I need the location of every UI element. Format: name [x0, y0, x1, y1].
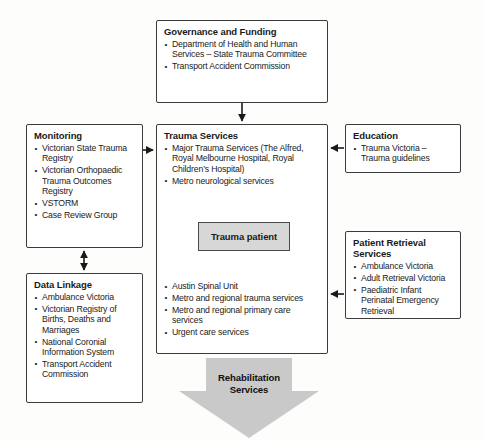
- box-patient-retrieval-services[interactable]: Patient Retrieval Services Ambulance Vic…: [345, 231, 461, 319]
- list-item: Victorian Orthopaedic Trauma Outcomes Re…: [34, 165, 136, 196]
- list-item: Metro neurological services: [164, 176, 321, 186]
- box-item-list: Trauma Victoria – Trauma guidelines: [353, 143, 454, 164]
- list-item: Austin Spinal Unit: [164, 281, 321, 291]
- box-governance-and-funding[interactable]: Governance and Funding Department of Hea…: [156, 20, 328, 103]
- list-item: Paediatric Infant Perinatal Emergency Re…: [353, 285, 454, 316]
- rehabilitation-arrow-icon: [179, 358, 319, 438]
- box-item-list-top: Major Trauma Services (The Alfred, Royal…: [164, 143, 321, 186]
- box-item-list-bottom: Austin Spinal Unit Metro and regional tr…: [164, 281, 321, 339]
- box-item-list: Department of Health and Human Services …: [164, 39, 321, 72]
- list-item: Transport Accident Commission: [34, 359, 136, 380]
- box-item-list: Ambulance Victoria Adult Retrieval Victo…: [353, 261, 454, 316]
- list-item: Metro and regional primary care services: [164, 305, 321, 326]
- box-education[interactable]: Education Trauma Victoria – Trauma guide…: [345, 124, 461, 173]
- box-title: Education: [353, 130, 454, 141]
- box-trauma-patient[interactable]: Trauma patient: [198, 222, 290, 251]
- box-title: Governance and Funding: [164, 26, 321, 37]
- list-item: Transport Accident Commission: [164, 61, 321, 71]
- box-data-linkage[interactable]: Data Linkage Ambulance Victoria Victoria…: [26, 273, 143, 403]
- list-item: Adult Retrieval Victoria: [353, 273, 454, 283]
- box-title: Patient Retrieval Services: [353, 237, 454, 259]
- list-item: Case Review Group: [34, 210, 136, 220]
- rehabilitation-services-label: Rehabilitation Services: [179, 372, 319, 396]
- list-item: Victorian Registry of Births, Deaths and…: [34, 304, 136, 335]
- rehab-label-line1: Rehabilitation: [179, 372, 319, 384]
- list-item: Ambulance Victoria: [34, 292, 136, 302]
- rehab-label-line2: Services: [179, 384, 319, 396]
- box-title: Trauma Services: [164, 130, 321, 141]
- list-item: Metro and regional trauma services: [164, 293, 321, 303]
- list-item: Ambulance Victoria: [353, 261, 454, 271]
- box-title: Monitoring: [34, 130, 136, 141]
- box-item-list: Ambulance Victoria Victorian Registry of…: [34, 292, 136, 380]
- box-title: Data Linkage: [34, 279, 136, 290]
- list-item: Trauma Victoria – Trauma guidelines: [353, 143, 454, 164]
- list-item: National Coronial Information System: [34, 337, 136, 358]
- list-item: Urgent care services: [164, 327, 321, 337]
- diagram-canvas: Governance and Funding Department of Hea…: [0, 0, 484, 441]
- list-item: Department of Health and Human Services …: [164, 39, 321, 60]
- trauma-patient-label: Trauma patient: [211, 231, 277, 242]
- list-item: Victorian State Trauma Registry: [34, 143, 136, 164]
- list-item: VSTORM: [34, 198, 136, 208]
- box-monitoring[interactable]: Monitoring Victorian State Trauma Regist…: [26, 124, 143, 248]
- box-item-list: Victorian State Trauma Registry Victoria…: [34, 143, 136, 220]
- list-item: Major Trauma Services (The Alfred, Royal…: [164, 143, 321, 174]
